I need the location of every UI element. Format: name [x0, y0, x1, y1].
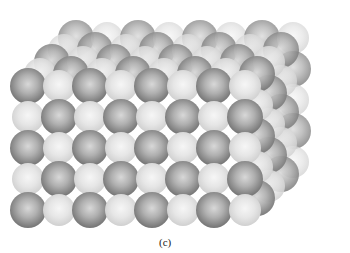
light-ion-sphere — [74, 101, 106, 133]
light-ion-sphere — [12, 101, 44, 133]
light-ion-sphere — [43, 194, 75, 226]
dark-ion-sphere — [103, 161, 139, 197]
light-ion-sphere — [167, 70, 199, 102]
dark-ion-sphere — [41, 161, 77, 197]
light-ion-sphere — [167, 194, 199, 226]
dark-ion-sphere — [103, 99, 139, 135]
dark-ion-sphere — [72, 192, 108, 228]
light-ion-sphere — [74, 163, 106, 195]
dark-ion-sphere — [227, 99, 263, 135]
dark-ion-sphere — [72, 68, 108, 104]
light-ion-sphere — [167, 132, 199, 164]
dark-ion-sphere — [165, 161, 201, 197]
light-ion-sphere — [43, 70, 75, 102]
light-ion-sphere — [105, 194, 137, 226]
dark-ion-sphere — [72, 130, 108, 166]
crystal-lattice-diagram — [0, 0, 350, 235]
light-ion-sphere — [229, 194, 261, 226]
dark-ion-sphere — [10, 192, 46, 228]
light-ion-sphere — [229, 70, 261, 102]
dark-ion-sphere — [196, 192, 232, 228]
dark-ion-sphere — [134, 68, 170, 104]
dark-ion-sphere — [227, 161, 263, 197]
dark-ion-sphere — [134, 192, 170, 228]
dark-ion-sphere — [10, 68, 46, 104]
dark-ion-sphere — [196, 68, 232, 104]
dark-ion-sphere — [10, 130, 46, 166]
dark-ion-sphere — [41, 99, 77, 135]
light-ion-sphere — [105, 132, 137, 164]
light-ion-sphere — [229, 132, 261, 164]
light-ion-sphere — [136, 163, 168, 195]
light-ion-sphere — [198, 101, 230, 133]
light-ion-sphere — [136, 101, 168, 133]
dark-ion-sphere — [165, 99, 201, 135]
light-ion-sphere — [12, 163, 44, 195]
dark-ion-sphere — [134, 130, 170, 166]
light-ion-sphere — [198, 163, 230, 195]
light-ion-sphere — [105, 70, 137, 102]
light-ion-sphere — [43, 132, 75, 164]
figure-caption: (c) — [159, 236, 171, 248]
dark-ion-sphere — [196, 130, 232, 166]
